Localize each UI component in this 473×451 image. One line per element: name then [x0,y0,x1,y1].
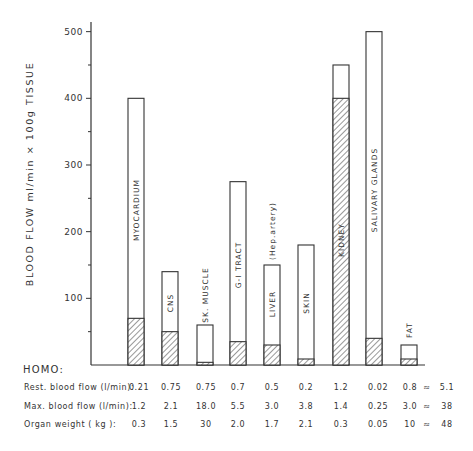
approx-symbol: ≈ [423,402,430,411]
y-tick-label: 200 [64,227,83,237]
cell-value: 0.3 [334,420,349,429]
bar-label: CNS [166,294,175,313]
cell-value: 2.1 [164,402,179,411]
y-tick-label: 400 [64,93,83,103]
y-tick-label: 100 [64,293,83,303]
cell-value: 0.25 [368,402,388,411]
rest-flow-bar [162,332,178,365]
bar-kidney: KIDNEY [333,65,349,365]
row-label: Organ weight ( kg ): [24,420,116,429]
row-label: Max. blood flow (l/min): [24,402,133,411]
y-tick-label: 500 [64,27,83,37]
cell-value: 0.5 [265,383,280,392]
y-ticks: 100200300400500 [64,27,91,332]
cell-value: 3.8 [299,402,314,411]
table-row: Rest. blood flow (l/min):0.210.750.750.7… [24,383,454,392]
rest-flow-bar [264,345,280,365]
bar-salivary-glands: SALIVARY GLANDS [366,32,382,365]
cell-value: 2.1 [299,420,314,429]
cell-value: 1.4 [334,402,349,411]
cell-value: 0.8 [403,383,418,392]
table-row: Organ weight ( kg ):0.31.5302.01.72.10.3… [24,420,453,429]
bar-label: SK. MUSCLE [201,267,210,322]
bar-label: KIDNEY [337,223,346,257]
cell-value: 30 [200,420,211,429]
cell-value: 0.02 [368,383,388,392]
bar-label: SKIN [302,292,311,314]
bar-fat: FAT [401,322,417,365]
data-table: Rest. blood flow (l/min):0.210.750.750.7… [24,383,454,429]
table-heading: HOMO: [23,364,64,375]
cell-value: 1.5 [164,420,179,429]
cell-value: 1.2 [132,402,147,411]
bars-group: MYOCARDIUMCNSSK. MUSCLEG-I TRACTLIVER(He… [128,32,417,365]
total-value: 48 [441,420,452,429]
cell-value: 3.0 [265,402,280,411]
rest-flow-bar [230,342,246,365]
table-row: Max. blood flow (l/min):1.22.118.05.53.0… [24,402,453,411]
cell-value: 1.2 [334,383,349,392]
y-tick-label: 300 [64,160,83,170]
rest-flow-bar [197,362,213,365]
cell-value: 0.3 [132,420,147,429]
bar-label: FAT [405,322,414,338]
cell-value: 0.75 [196,383,216,392]
cell-value: 0.21 [129,383,149,392]
max-flow-bar [197,325,213,365]
bar-sk-muscle: SK. MUSCLE [197,267,213,365]
bar-liver: LIVER(Hep.artery) [264,202,280,365]
cell-value: 5.5 [231,402,246,411]
cell-value: 0.7 [231,383,246,392]
approx-symbol: ≈ [423,383,430,392]
bar-g-i-tract: G-I TRACT [230,182,246,365]
y-axis-title: BLOOD FLOW ml/min × 100g TISSUE [24,62,35,286]
rest-flow-bar [298,359,314,365]
bar-label: LIVER [268,291,277,317]
bar-skin: SKIN [298,245,314,365]
total-value: 5.1 [440,383,455,392]
cell-value: 10 [404,420,415,429]
cell-value: 1.7 [265,420,280,429]
row-label: Rest. blood flow (l/min): [24,383,134,392]
cell-value: 2.0 [231,420,246,429]
bar-label: SALIVARY GLANDS [370,148,379,232]
blood-flow-chart: BLOOD FLOW ml/min × 100g TISSUE 10020030… [0,0,473,451]
bar-myocardium: MYOCARDIUM [128,98,144,365]
cell-value: 0.05 [368,420,388,429]
bar-cns: CNS [162,272,178,365]
bar-sublabel: (Hep.artery) [268,202,277,260]
rest-flow-bar [366,338,382,365]
approx-symbol: ≈ [423,420,430,429]
rest-flow-bar [401,359,417,365]
total-value: 38 [441,402,452,411]
rest-flow-bar [128,318,144,365]
bar-label: G-I TRACT [234,242,243,288]
cell-value: 18.0 [196,402,216,411]
bar-label: MYOCARDIUM [132,179,141,241]
cell-value: 3.0 [403,402,418,411]
cell-value: 0.2 [299,383,314,392]
cell-value: 0.75 [161,383,181,392]
